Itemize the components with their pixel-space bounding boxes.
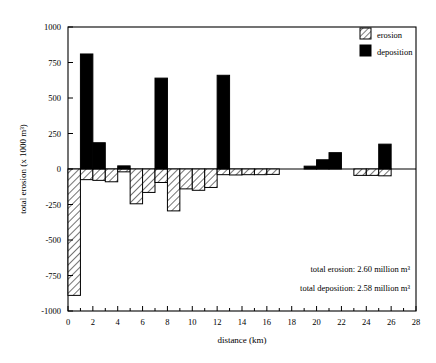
bar-erosion-23 [354,169,366,175]
bar-erosion-14 [242,169,254,175]
bar-deposition-21 [329,153,341,169]
legend-swatch-erosion [360,28,371,39]
x-tick-label-14: 14 [238,317,247,327]
bar-erosion-5 [130,169,142,204]
annotation-total-erosion: total erosion: 2.60 million m³ [310,264,410,274]
x-tick-label-26: 26 [387,317,396,327]
bar-erosion-10 [192,169,204,190]
x-tick-label-0: 0 [66,317,70,327]
bar-erosion-0 [68,169,80,295]
x-tick-label-12: 12 [213,317,222,327]
y-tick-label-1000: 1000 [44,22,61,32]
legend-label-deposition: deposition [377,47,413,57]
y-tick-label--250: -250 [45,200,61,210]
bar-deposition-12 [217,75,229,169]
bar-deposition-1 [80,54,92,169]
x-tick-label-4: 4 [116,317,121,327]
bar-erosion-2 [93,169,105,180]
x-axis-title: distance (km) [217,335,266,345]
legend-swatch-deposition [360,45,371,56]
chart-figure: 10007505002500-250-500-750-1000 02468101… [0,0,436,363]
x-tick-label-18: 18 [287,317,296,327]
x-tick-label-8: 8 [165,317,169,327]
bar-erosion-7 [155,169,167,182]
bar-deposition-25 [379,144,391,169]
x-tick-label-10: 10 [188,317,197,327]
bar-erosion-8 [167,169,179,211]
bar-erosion-24 [366,169,378,175]
y-tick-label--500: -500 [45,235,61,245]
bar-deposition-7 [155,78,167,169]
bar-erosion-13 [230,169,242,175]
x-tick-label-16: 16 [263,317,272,327]
bar-erosion-16 [267,169,279,174]
bar-deposition-20 [317,160,329,169]
y-tick-label--1000: -1000 [41,306,61,316]
y-axis-title: total erosion (x 1000 m³) [18,124,28,214]
x-tick-label-20: 20 [312,317,321,327]
erosion-deposition-bar-chart: 10007505002500-250-500-750-1000 02468101… [0,0,436,363]
bar-deposition-4 [118,166,130,169]
bar-erosion-11 [205,169,217,187]
bar-erosion-3 [105,169,117,182]
bar-erosion-15 [254,169,266,175]
y-tick-label--750: -750 [45,271,61,281]
y-tick-label-250: 250 [48,129,61,139]
y-tick-label-0: 0 [57,164,61,174]
bar-erosion-1 [80,169,92,180]
annotation-total-deposition: total deposition: 2.58 million m³ [300,283,410,293]
x-tick-label-6: 6 [140,317,144,327]
x-tick-label-22: 22 [337,317,346,327]
x-tick-label-24: 24 [362,317,371,327]
bar-erosion-9 [180,169,192,189]
bar-deposition-19 [304,166,316,169]
bar-erosion-6 [143,169,155,192]
x-tick-label-2: 2 [91,317,95,327]
bar-deposition-2 [93,143,105,169]
y-tick-label-750: 750 [48,58,61,68]
y-tick-label-500: 500 [48,93,61,103]
x-tick-label-28: 28 [412,317,421,327]
bar-erosion-25 [379,169,391,176]
legend-label-erosion: erosion [377,30,403,40]
bar-erosion-12 [217,169,229,175]
